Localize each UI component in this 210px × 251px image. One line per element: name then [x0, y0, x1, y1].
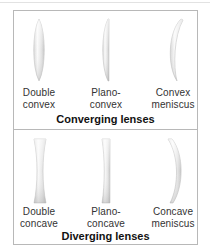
plano-concave-lens-icon [100, 138, 112, 204]
label-line: Concave [143, 206, 203, 218]
top-rule [0, 2, 210, 3]
label-line: meniscus [143, 99, 203, 111]
label-line: Convex [143, 87, 203, 99]
diverging-lenses-heading: Diverging lenses [14, 230, 197, 242]
double-convex-label: Double convex [9, 87, 69, 111]
double-convex-lens-icon [31, 18, 47, 82]
label-line: concave [9, 218, 69, 230]
diverging-lenses-section: Double concave Plano- concave Concave me… [14, 130, 197, 244]
convex-meniscus-lens-icon [162, 18, 186, 82]
double-concave-label: Double concave [9, 206, 69, 230]
label-line: Double [9, 87, 69, 99]
label-line: meniscus [143, 218, 203, 230]
concave-meniscus-lens-icon [166, 138, 188, 204]
label-line: Plano- [76, 87, 136, 99]
label-line: convex [76, 99, 136, 111]
plano-convex-lens-icon [99, 18, 113, 82]
label-line: Double [9, 206, 69, 218]
plano-convex-label: Plano- convex [76, 87, 136, 111]
label-line: Plano- [76, 206, 136, 218]
label-line: concave [76, 218, 136, 230]
convex-meniscus-label: Convex meniscus [143, 87, 203, 111]
concave-meniscus-label: Concave meniscus [143, 206, 203, 230]
converging-lenses-section: Double convex Plano- convex Convex menis… [14, 11, 197, 129]
double-concave-lens-icon [32, 138, 48, 204]
converging-lenses-heading: Converging lenses [14, 113, 197, 125]
label-line: convex [9, 99, 69, 111]
plano-concave-label: Plano- concave [76, 206, 136, 230]
lens-types-figure: Double convex Plano- convex Convex menis… [13, 10, 198, 245]
